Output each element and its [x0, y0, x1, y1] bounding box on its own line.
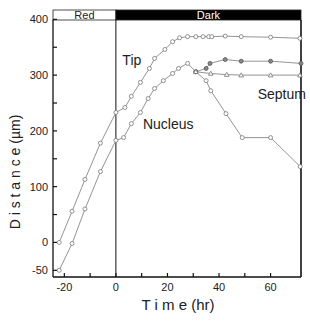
phase-label-red: Red	[74, 9, 94, 21]
annotations: TipNucleusSeptum	[122, 52, 306, 132]
series-septum	[194, 69, 303, 76]
series-tip	[57, 34, 302, 244]
data-point	[98, 141, 102, 145]
data-point	[239, 59, 243, 63]
data-point	[138, 110, 142, 114]
data-point	[178, 36, 182, 40]
data-point	[177, 66, 181, 70]
data-point	[114, 110, 118, 114]
data-point	[171, 71, 175, 75]
y-tick-label: 100	[30, 181, 48, 193]
x-tick-label: 60	[264, 281, 276, 293]
data-point	[83, 177, 87, 181]
light-phase-bar: RedDark	[53, 9, 301, 21]
data-point	[114, 138, 118, 142]
data-point	[210, 35, 214, 39]
x-tick-label: 40	[213, 281, 225, 293]
data-point	[123, 105, 127, 109]
y-tick-label: 400	[30, 13, 48, 25]
data-point	[129, 94, 133, 98]
data-point	[269, 35, 273, 39]
data-point	[138, 80, 142, 84]
data-point	[298, 36, 302, 40]
data-point	[194, 35, 198, 39]
data-point	[83, 207, 87, 211]
data-point	[171, 40, 175, 44]
data-point	[70, 242, 74, 246]
label-nucleus: Nucleus	[143, 116, 194, 132]
axes: -200204060-500100200300400	[30, 13, 277, 293]
series-septum-filled	[194, 58, 303, 74]
data-point	[299, 61, 303, 65]
x-tick-label: -20	[56, 281, 72, 293]
x-tick-label: 20	[161, 281, 173, 293]
data-point	[161, 79, 165, 83]
data-point	[224, 112, 228, 116]
data-point	[153, 56, 157, 60]
data-point	[163, 47, 167, 51]
data-point	[122, 136, 126, 140]
data-point	[147, 66, 151, 70]
data-point	[223, 34, 227, 38]
data-point	[186, 61, 190, 65]
data-point	[269, 59, 273, 63]
data-point	[146, 97, 150, 101]
data-point	[209, 89, 213, 93]
y-tick-label: 300	[30, 69, 48, 81]
data-point	[240, 136, 244, 140]
data-point	[186, 35, 190, 39]
data-point	[223, 58, 227, 62]
data-point	[204, 66, 208, 70]
data-point	[269, 136, 273, 140]
data-point	[298, 165, 302, 169]
data-point	[208, 61, 212, 65]
data-point	[129, 122, 133, 126]
series-layer	[57, 34, 303, 272]
y-axis-label: D i s t a n c e (µm)	[7, 115, 23, 230]
x-tick-label: 0	[113, 281, 119, 293]
data-point	[98, 170, 102, 174]
y-tick-label: -50	[32, 264, 48, 276]
data-point	[153, 87, 157, 91]
data-point	[204, 79, 208, 83]
data-point	[57, 240, 61, 244]
phase-label-dark: Dark	[197, 9, 221, 21]
plot-frame	[53, 20, 301, 277]
y-tick-label: 200	[30, 125, 48, 137]
x-axis-label: T i m e (hr)	[141, 296, 214, 313]
label-septum: Septum	[258, 86, 306, 102]
label-tip: Tip	[122, 52, 141, 68]
data-point	[57, 268, 61, 272]
data-point	[201, 35, 205, 39]
data-point	[239, 35, 243, 39]
data-point	[70, 209, 74, 213]
distance-time-chart: RedDark TipNucleusSeptum -200204060-5001…	[0, 0, 310, 321]
series-line	[196, 60, 301, 72]
y-tick-label: 0	[42, 236, 48, 248]
